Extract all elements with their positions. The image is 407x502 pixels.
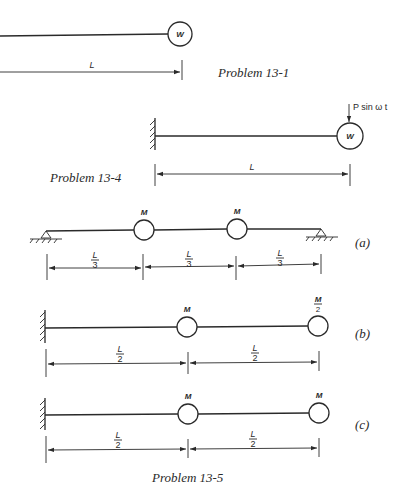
- beam: [198, 413, 309, 414]
- dimension-label-fraction: L 2: [251, 343, 259, 363]
- dimension-label-fraction: L 2: [249, 429, 257, 449]
- mass-label: M: [141, 208, 148, 217]
- svg-text:L: L: [92, 250, 97, 260]
- problem-13-5c: M M (c) L 2 L 2 Problem 13-5: [40, 391, 369, 485]
- dimension-label: L: [249, 162, 254, 172]
- mass-label-fraction: M 2: [314, 295, 322, 314]
- dimension-label: L: [89, 60, 94, 70]
- svg-text:2: 2: [316, 305, 321, 314]
- svg-text:L: L: [277, 248, 282, 258]
- beam-vibration-figure: W L Problem 13-1 W P sin ω t L Problem 1…: [0, 0, 407, 502]
- caption-problem-13-5: Problem 13-5: [151, 470, 224, 485]
- dimension-label-fraction: L 3: [185, 249, 193, 269]
- force-label: P sin ω t: [353, 102, 388, 112]
- svg-text:2: 2: [115, 440, 120, 450]
- mass-m: [227, 219, 247, 239]
- beam: [45, 327, 177, 328]
- part-tag: (c): [355, 417, 369, 432]
- problem-13-4: W P sin ω t L Problem 13-4: [49, 102, 388, 186]
- mass-label: M: [316, 391, 323, 400]
- svg-text:L: L: [250, 429, 255, 439]
- mass-m: [309, 403, 329, 423]
- beam: [45, 414, 178, 415]
- svg-text:2: 2: [252, 353, 257, 363]
- svg-text:3: 3: [186, 259, 191, 269]
- svg-text:3: 3: [92, 260, 97, 270]
- caption-problem-13-4: Problem 13-4: [49, 170, 122, 185]
- problem-13-5b: M M 2 (b) L 2 L 2: [40, 295, 370, 377]
- svg-text:3: 3: [277, 258, 282, 268]
- svg-text:2: 2: [250, 439, 255, 449]
- problem-13-5a: M M (a) L 3: [30, 207, 370, 280]
- mass-label: M: [185, 392, 192, 401]
- part-tag: (b): [355, 326, 370, 341]
- mass-label: M: [234, 207, 241, 216]
- fixed-support-icon: [150, 118, 155, 150]
- dimension-label-fraction: L 2: [114, 430, 122, 450]
- svg-text:L: L: [115, 430, 120, 440]
- pin-support-icon: [306, 229, 338, 241]
- dimension-label-fraction: L 2: [116, 344, 124, 364]
- mass-m: [177, 317, 197, 337]
- dimension-label-fraction: L 3: [91, 250, 99, 270]
- svg-text:M: M: [315, 295, 322, 304]
- beam: [46, 230, 134, 231]
- mass-label: M: [184, 305, 191, 314]
- svg-text:L: L: [186, 249, 191, 259]
- svg-text:2: 2: [117, 354, 122, 364]
- beam: [0, 34, 168, 36]
- pin-support-icon: [30, 231, 62, 243]
- mass-m-half: [308, 316, 328, 336]
- svg-text:L: L: [117, 344, 122, 354]
- fixed-support-icon: [40, 310, 45, 343]
- caption-problem-13-1: Problem 13-1: [217, 65, 289, 80]
- mass-m: [178, 404, 198, 424]
- beam: [154, 229, 227, 230]
- beam: [197, 326, 308, 327]
- problem-13-1: W L Problem 13-1: [0, 22, 289, 80]
- fixed-support-icon: [40, 398, 45, 430]
- svg-text:L: L: [252, 343, 257, 353]
- part-tag: (a): [355, 235, 370, 250]
- mass-m: [134, 220, 154, 240]
